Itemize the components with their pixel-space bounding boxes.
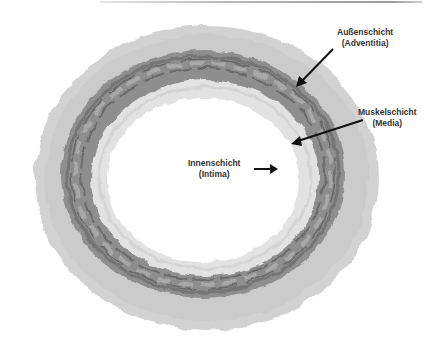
label-adventitia-term: (Adventitia)	[337, 38, 393, 49]
label-adventitia: Außenschicht (Adventitia)	[337, 27, 393, 49]
label-media: Muskelschicht (Media)	[358, 107, 417, 129]
label-intima: Innenschicht (Intima)	[188, 158, 240, 180]
lumen	[107, 98, 299, 262]
label-adventitia-name: Außenschicht	[337, 27, 393, 38]
label-media-name: Muskelschicht	[358, 107, 417, 118]
label-intima-term: (Intima)	[188, 169, 240, 180]
label-media-term: (Media)	[358, 118, 417, 129]
label-intima-name: Innenschicht	[188, 158, 240, 169]
